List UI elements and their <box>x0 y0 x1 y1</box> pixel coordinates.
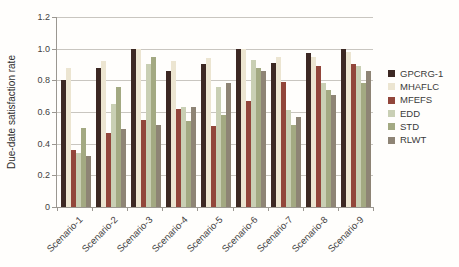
y-tick-label: 1.2 <box>20 13 50 22</box>
y-tick-mark <box>52 49 57 50</box>
x-tick-mark <box>373 207 374 211</box>
y-tick-mark <box>52 17 57 18</box>
x-tick-mark <box>197 207 198 211</box>
y-tick-mark <box>52 80 57 81</box>
plot-area <box>57 17 373 207</box>
legend-swatch-mhaflc <box>388 83 395 90</box>
y-tick-mark <box>52 175 57 176</box>
x-category-label: Scenario-3 <box>114 214 154 254</box>
legend-swatch-mfefs <box>388 97 395 104</box>
legend-label: RLWT <box>400 135 426 145</box>
x-tick-mark <box>57 207 58 211</box>
chart-canvas: Due-date satisfaction rate GPCRG-1MHAFLC… <box>0 0 459 267</box>
gridline <box>57 49 373 50</box>
x-category-label: Scenario-5 <box>185 214 225 254</box>
bar-rlwt-scenario-6 <box>261 71 266 207</box>
legend-swatch-edd <box>388 110 395 117</box>
x-axis-baseline <box>57 207 373 208</box>
bar-rlwt-scenario-1 <box>86 156 91 207</box>
bar-group-scenario-6 <box>236 49 266 207</box>
legend-item-gpcrg-1: GPCRG-1 <box>388 67 443 80</box>
x-category-label: Scenario-2 <box>79 214 119 254</box>
legend-label: STD <box>400 122 419 132</box>
y-tick-mark <box>52 144 57 145</box>
y-axis-title: Due-date satisfaction rate <box>4 17 18 207</box>
legend-item-rlwt: RLWT <box>388 133 443 146</box>
bar-group-scenario-9 <box>341 49 371 207</box>
legend-swatch-gpcrg-1 <box>388 70 395 77</box>
x-tick-mark <box>233 207 234 211</box>
y-tick-label: 1.0 <box>20 45 50 54</box>
y-tick-mark <box>52 112 57 113</box>
legend-item-mhaflc: MHAFLC <box>388 80 443 93</box>
legend-label: MHAFLC <box>400 82 439 92</box>
x-tick-mark <box>268 207 269 211</box>
legend-item-edd: EDD <box>388 107 443 120</box>
x-category-label: Scenario-4 <box>149 214 189 254</box>
bar-group-scenario-5 <box>201 58 231 207</box>
legend-item-std: STD <box>388 120 443 133</box>
y-tick-label: 0.6 <box>20 108 50 117</box>
bar-rlwt-scenario-9 <box>366 71 371 207</box>
legend-label: MFEFS <box>400 95 432 105</box>
legend: GPCRG-1MHAFLCMFEFSEDDSTDRLWT <box>388 67 443 147</box>
legend-label: EDD <box>400 109 420 119</box>
x-category-label: Scenario-8 <box>290 214 330 254</box>
y-tick-label: 0.4 <box>20 140 50 149</box>
gridline <box>57 17 373 18</box>
legend-swatch-std <box>388 123 395 130</box>
bar-group-scenario-4 <box>166 61 196 207</box>
bar-rlwt-scenario-8 <box>331 95 336 207</box>
bar-rlwt-scenario-3 <box>156 125 161 207</box>
x-category-label: Scenario-7 <box>255 214 295 254</box>
bar-rlwt-scenario-2 <box>121 129 126 207</box>
x-tick-mark <box>92 207 93 211</box>
y-tick-label: 0.2 <box>20 171 50 180</box>
bar-group-scenario-8 <box>306 53 336 207</box>
y-tick-label: 0 <box>20 203 50 212</box>
legend-item-mfefs: MFEFS <box>388 94 443 107</box>
bar-group-scenario-7 <box>271 57 301 207</box>
bar-rlwt-scenario-7 <box>296 117 301 207</box>
x-tick-mark <box>127 207 128 211</box>
x-tick-mark <box>303 207 304 211</box>
bar-group-scenario-3 <box>131 49 161 207</box>
bar-group-scenario-1 <box>61 68 91 207</box>
bar-rlwt-scenario-5 <box>226 83 231 207</box>
x-tick-mark <box>338 207 339 211</box>
x-category-label: Scenario-6 <box>220 214 260 254</box>
bar-group-scenario-2 <box>96 61 126 207</box>
bar-rlwt-scenario-4 <box>191 107 196 207</box>
legend-swatch-rlwt <box>388 137 395 144</box>
x-tick-mark <box>162 207 163 211</box>
x-category-label: Scenario-9 <box>325 214 365 254</box>
legend-label: GPCRG-1 <box>400 69 443 79</box>
x-category-label: Scenario-1 <box>44 214 84 254</box>
y-tick-label: 0.8 <box>20 76 50 85</box>
